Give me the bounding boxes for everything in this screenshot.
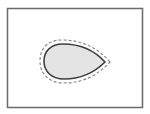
diagram-canvas [0,0,150,114]
diagram-svg [0,0,150,114]
